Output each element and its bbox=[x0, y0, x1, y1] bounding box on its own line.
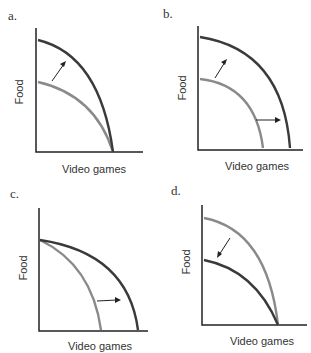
panel-a: a. Food Video games bbox=[0, 0, 155, 175]
panel-d: d. Food Video games bbox=[155, 175, 311, 353]
ppf-chart bbox=[0, 175, 155, 353]
ppf-chart bbox=[155, 175, 311, 353]
ppf-chart bbox=[0, 0, 155, 175]
panel-c: c. Food Video games bbox=[0, 175, 155, 353]
panel-b: b. Food Video games bbox=[155, 0, 311, 175]
ppf-chart bbox=[155, 0, 311, 175]
